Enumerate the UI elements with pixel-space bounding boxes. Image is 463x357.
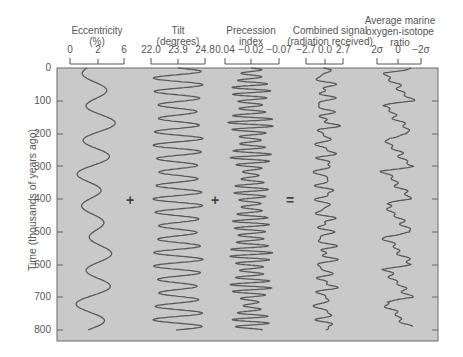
plus-operator: + <box>126 192 134 208</box>
milankovitch-figure: Eccentricity (%) Tilt (degrees) Precessi… <box>0 0 463 357</box>
scale-brackets <box>70 58 421 64</box>
plus-operator: + <box>211 192 219 208</box>
equals-operator: = <box>286 192 294 208</box>
plot-svg <box>0 0 463 357</box>
